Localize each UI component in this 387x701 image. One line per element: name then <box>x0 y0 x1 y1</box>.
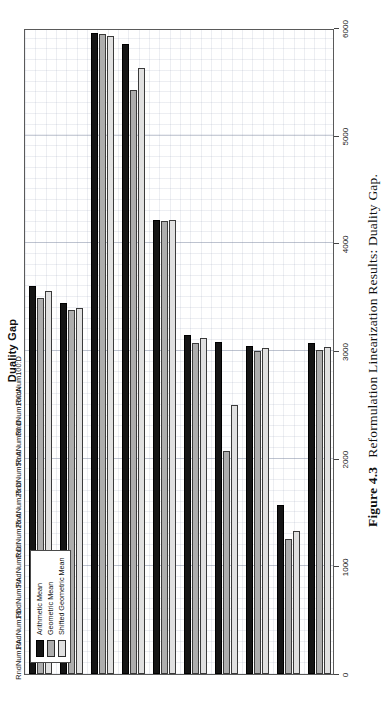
axis-tick-label: 5000 <box>341 128 350 146</box>
bar <box>122 44 129 674</box>
axis-tick <box>334 566 339 567</box>
axis-tick-label: 0 <box>341 673 350 677</box>
bar <box>107 36 114 674</box>
legend-swatch <box>47 640 55 657</box>
legend-swatch <box>36 640 44 657</box>
axis-tick <box>334 459 339 460</box>
bar <box>192 343 199 674</box>
bar <box>316 350 323 674</box>
bar <box>293 531 300 674</box>
axis-tick-label: 4000 <box>341 235 350 253</box>
axis-tick <box>334 136 339 137</box>
bar <box>76 308 83 674</box>
axis-tick <box>334 28 339 29</box>
figure: Duality Gap RndNum1:ARndNum1:DRndNum5:AR… <box>0 0 387 701</box>
axis-tick <box>334 243 339 244</box>
figure-caption-text: Reformulation Linearization Results: Dua… <box>365 174 380 458</box>
axis-tick-label: 2000 <box>341 451 350 469</box>
bar <box>308 343 315 674</box>
chart-legend: Arithmetic MeanGeometric MeanShifted Geo… <box>30 550 71 663</box>
category-label: RndNum100:D <box>14 356 23 405</box>
bar <box>262 348 269 674</box>
bar <box>200 338 207 674</box>
bar <box>161 221 168 674</box>
bar <box>231 405 238 674</box>
legend-label: Geometric Mean <box>46 582 55 635</box>
legend-item: Geometric Mean <box>46 557 55 657</box>
axis-tick <box>334 674 339 675</box>
bar <box>91 33 98 674</box>
legend-item: Shifted Geometric Mean <box>57 557 66 657</box>
bar <box>223 451 230 674</box>
bar <box>130 90 137 674</box>
figure-number: Figure 4.3 <box>365 467 380 527</box>
bar <box>99 34 106 674</box>
bar <box>324 347 331 674</box>
bar <box>153 220 160 674</box>
bar <box>285 539 292 674</box>
bar <box>138 68 145 674</box>
bar <box>169 220 176 674</box>
legend-item: Arithmetic Mean <box>35 557 44 657</box>
bar <box>277 505 284 674</box>
legend-label: Shifted Geometric Mean <box>57 557 66 635</box>
rotated-figure-wrapper: Duality Gap RndNum1:ARndNum1:DRndNum5:AR… <box>0 0 387 701</box>
bar <box>184 335 191 674</box>
bar <box>215 342 222 674</box>
legend-label: Arithmetic Mean <box>35 583 44 635</box>
axis-tick-label: 1000 <box>341 558 350 576</box>
legend-swatch <box>58 640 66 657</box>
figure-caption: Figure 4.3Reformulation Linearization Re… <box>365 0 381 701</box>
bar <box>254 351 261 674</box>
bars-layer <box>25 30 333 674</box>
value-axis: 0100020003000400050006000 <box>334 29 360 675</box>
bar <box>246 346 253 674</box>
axis-tick <box>334 351 339 352</box>
axis-tick-label: 3000 <box>341 343 350 361</box>
axis-tick-label: 6000 <box>341 20 350 38</box>
category-axis-labels: RndNum1:ARndNum1:DRndNum5:ARndNum5:DRndN… <box>6 29 24 675</box>
